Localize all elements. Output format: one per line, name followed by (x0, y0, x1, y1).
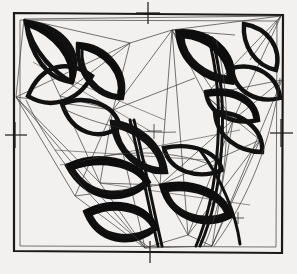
artboard (0, 0, 297, 274)
drawing-canvas (0, 0, 297, 274)
